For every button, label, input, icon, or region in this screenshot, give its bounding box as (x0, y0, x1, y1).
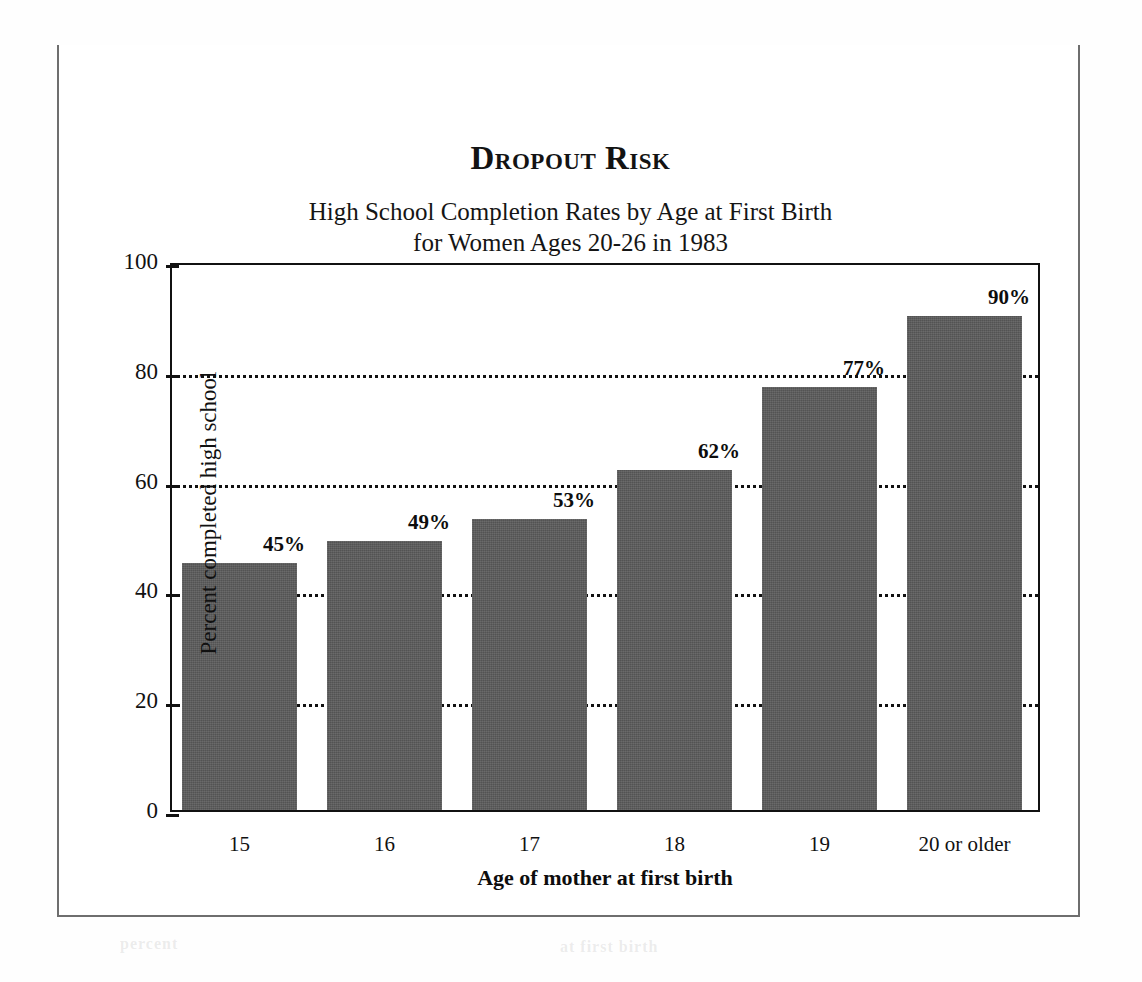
bar-value-label: 90% (988, 285, 1030, 310)
bar-group[interactable]: 49% (327, 265, 442, 810)
bar-20-or-older[interactable] (907, 316, 1022, 810)
x-tick-label-17: 17 (452, 832, 607, 857)
x-tick-label-19: 19 (742, 832, 897, 857)
ghost-text-6: at first birth (560, 938, 658, 956)
bar-group[interactable]: 62% (617, 265, 732, 810)
bar-16[interactable] (327, 541, 442, 810)
x-tick-label-20-or-older: 20 or older (887, 832, 1042, 857)
y-tick-mark-40 (166, 594, 179, 597)
y-tick-label-80: 80 (80, 359, 158, 385)
bar-group[interactable]: 90% (907, 265, 1022, 810)
bar-17[interactable] (472, 519, 587, 810)
y-axis-title: Percent completed high school (196, 233, 222, 793)
bar-value-label: 49% (408, 510, 450, 535)
y-tick-mark-60 (166, 485, 179, 488)
figure-frame: Dropout Risk High School Completion Rate… (57, 45, 1080, 917)
y-tick-mark-100 (166, 265, 179, 268)
y-tick-label-20: 20 (80, 688, 158, 714)
y-tick-label-100: 100 (80, 249, 158, 275)
y-tick-mark-20 (166, 704, 179, 707)
bar-group[interactable]: 77% (762, 265, 877, 810)
y-tick-label-40: 40 (80, 578, 158, 604)
chart-title: Dropout Risk (59, 140, 1082, 177)
y-tick-label-0: 0 (80, 798, 158, 824)
bar-value-label: 77% (843, 356, 885, 381)
plot-area: 45%49%53%62%77%90% 020406080100 15161718… (170, 263, 1040, 812)
bars-layer: 45%49%53%62%77%90% (172, 265, 1038, 810)
bar-value-label: 45% (263, 532, 305, 557)
y-tick-mark-0 (166, 814, 179, 817)
x-tick-label-18: 18 (597, 832, 752, 857)
bar-group[interactable]: 53% (472, 265, 587, 810)
x-axis-title: Age of mother at first birth (172, 865, 1038, 891)
bar-18[interactable] (617, 470, 732, 810)
x-tick-label-16: 16 (307, 832, 462, 857)
bar-value-label: 53% (553, 488, 595, 513)
y-tick-label-60: 60 (80, 469, 158, 495)
ghost-text-5: percent (120, 935, 178, 953)
bar-19[interactable] (762, 387, 877, 810)
chart-subtitle-line-1: High School Completion Rates by Age at F… (59, 197, 1082, 228)
y-tick-mark-80 (166, 375, 179, 378)
x-tick-label-15: 15 (162, 832, 317, 857)
bar-value-label: 62% (698, 439, 740, 464)
page-background: A STATISTICAL PORTRAIT in 1983 and the o… (0, 0, 1142, 982)
